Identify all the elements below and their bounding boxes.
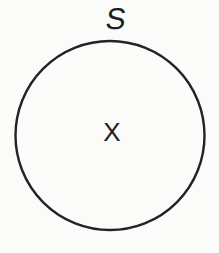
set-label-s: S <box>96 4 136 34</box>
element-label-x: X <box>92 119 132 145</box>
figure-canvas: S X <box>0 0 219 253</box>
